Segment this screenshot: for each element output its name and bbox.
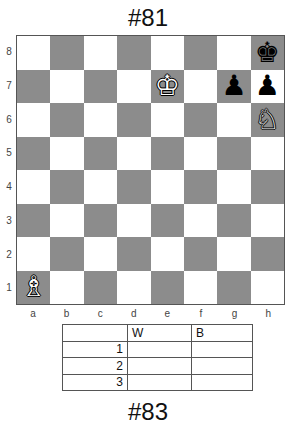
square-b6[interactable]	[50, 103, 83, 137]
square-e1[interactable]	[151, 271, 184, 305]
file-label: a	[16, 308, 50, 319]
black-pawn-icon[interactable]: ♟	[255, 72, 280, 100]
square-h3[interactable]	[251, 204, 284, 238]
square-g5[interactable]	[217, 137, 250, 171]
white-move-cell[interactable]	[128, 374, 192, 391]
square-a7[interactable]	[17, 70, 50, 104]
file-label: g	[218, 308, 252, 319]
square-a4[interactable]	[17, 170, 50, 204]
rank-label: 3	[4, 215, 14, 226]
square-d2[interactable]	[117, 237, 150, 271]
square-f5[interactable]	[184, 137, 217, 171]
square-a8[interactable]	[17, 36, 50, 70]
square-a5[interactable]	[17, 137, 50, 171]
rank-label: 2	[4, 249, 14, 260]
square-d5[interactable]	[117, 137, 150, 171]
square-g6[interactable]	[217, 103, 250, 137]
black-move-cell[interactable]	[192, 374, 253, 391]
square-g8[interactable]	[217, 36, 250, 70]
rank-label: 8	[4, 46, 14, 57]
square-c7[interactable]	[84, 70, 117, 104]
square-e6[interactable]	[151, 103, 184, 137]
square-d3[interactable]	[117, 204, 150, 238]
score-table: W B 1 2 3	[62, 324, 253, 391]
rank-label: 4	[4, 181, 14, 192]
file-label: c	[83, 308, 117, 319]
square-c3[interactable]	[84, 204, 117, 238]
square-f6[interactable]	[184, 103, 217, 137]
square-e5[interactable]	[151, 137, 184, 171]
square-b4[interactable]	[50, 170, 83, 204]
chess-board: ♚♔♟♟♘♗	[16, 35, 285, 305]
square-b3[interactable]	[50, 204, 83, 238]
puzzle-number-title: #81	[0, 4, 296, 32]
square-h8[interactable]: ♚	[251, 36, 284, 70]
square-f4[interactable]	[184, 170, 217, 204]
square-h6[interactable]: ♘	[251, 103, 284, 137]
score-row: 1	[63, 341, 253, 358]
move-number: 3	[63, 374, 128, 391]
square-a1[interactable]: ♗	[17, 271, 50, 305]
square-f3[interactable]	[184, 204, 217, 238]
square-e7[interactable]: ♔	[151, 70, 184, 104]
square-g2[interactable]	[217, 237, 250, 271]
square-c4[interactable]	[84, 170, 117, 204]
square-d6[interactable]	[117, 103, 150, 137]
rank-label: 1	[4, 282, 14, 293]
square-g1[interactable]	[217, 271, 250, 305]
move-number: 2	[63, 358, 128, 375]
white-bishop-icon[interactable]: ♗	[21, 273, 46, 301]
header-move-number	[63, 325, 128, 342]
square-h2[interactable]	[251, 237, 284, 271]
square-e2[interactable]	[151, 237, 184, 271]
white-knight-icon[interactable]: ♘	[255, 106, 280, 134]
square-g7[interactable]: ♟	[217, 70, 250, 104]
score-header-row: W B	[63, 325, 253, 342]
square-f8[interactable]	[184, 36, 217, 70]
square-e3[interactable]	[151, 204, 184, 238]
square-g3[interactable]	[217, 204, 250, 238]
square-h7[interactable]: ♟	[251, 70, 284, 104]
square-a2[interactable]	[17, 237, 50, 271]
square-d1[interactable]	[117, 271, 150, 305]
square-b2[interactable]	[50, 237, 83, 271]
square-c2[interactable]	[84, 237, 117, 271]
header-white: W	[128, 325, 192, 342]
white-move-cell[interactable]	[128, 358, 192, 375]
square-c8[interactable]	[84, 36, 117, 70]
square-h4[interactable]	[251, 170, 284, 204]
square-h5[interactable]	[251, 137, 284, 171]
move-number: 1	[63, 341, 128, 358]
square-a3[interactable]	[17, 204, 50, 238]
white-move-cell[interactable]	[128, 341, 192, 358]
square-c1[interactable]	[84, 271, 117, 305]
file-label: b	[50, 308, 84, 319]
square-a6[interactable]	[17, 103, 50, 137]
white-king-icon[interactable]: ♔	[155, 72, 180, 100]
square-f1[interactable]	[184, 271, 217, 305]
square-b7[interactable]	[50, 70, 83, 104]
square-b8[interactable]	[50, 36, 83, 70]
square-f7[interactable]	[184, 70, 217, 104]
square-b5[interactable]	[50, 137, 83, 171]
black-pawn-icon[interactable]: ♟	[221, 72, 246, 100]
file-label: h	[251, 308, 285, 319]
black-king-icon[interactable]: ♚	[255, 39, 280, 67]
square-h1[interactable]	[251, 271, 284, 305]
score-row: 2	[63, 358, 253, 375]
black-move-cell[interactable]	[192, 341, 253, 358]
square-d4[interactable]	[117, 170, 150, 204]
square-d8[interactable]	[117, 36, 150, 70]
square-c6[interactable]	[84, 103, 117, 137]
square-f2[interactable]	[184, 237, 217, 271]
square-g4[interactable]	[217, 170, 250, 204]
square-e8[interactable]	[151, 36, 184, 70]
square-e4[interactable]	[151, 170, 184, 204]
file-label: f	[184, 308, 218, 319]
file-label: d	[117, 308, 151, 319]
score-row: 3	[63, 374, 253, 391]
square-b1[interactable]	[50, 271, 83, 305]
square-d7[interactable]	[117, 70, 150, 104]
black-move-cell[interactable]	[192, 358, 253, 375]
square-c5[interactable]	[84, 137, 117, 171]
